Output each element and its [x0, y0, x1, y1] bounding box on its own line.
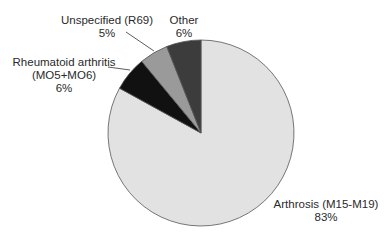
pie-slices [108, 40, 294, 226]
label-other: Other 6% [164, 14, 204, 40]
label-unspecified-name: Unspecified (R69) [58, 14, 156, 27]
label-other-pct: 6% [164, 27, 204, 40]
label-arthrosis-pct: 83% [270, 211, 382, 224]
label-unspecified-pct: 5% [58, 27, 156, 40]
label-rheumatoid-code: (MO5+MO6) [10, 69, 118, 82]
label-rheumatoid: Rheumatoid arthritis (MO5+MO6) 6% [10, 56, 118, 95]
label-arthrosis: Arthrosis (M15-M19) 83% [270, 198, 382, 224]
label-rheumatoid-name: Rheumatoid arthritis [10, 56, 118, 69]
label-other-name: Other [164, 14, 204, 27]
label-arthrosis-name: Arthrosis (M15-M19) [270, 198, 382, 211]
label-rheumatoid-pct: 6% [10, 82, 118, 95]
label-unspecified: Unspecified (R69) 5% [58, 14, 156, 40]
